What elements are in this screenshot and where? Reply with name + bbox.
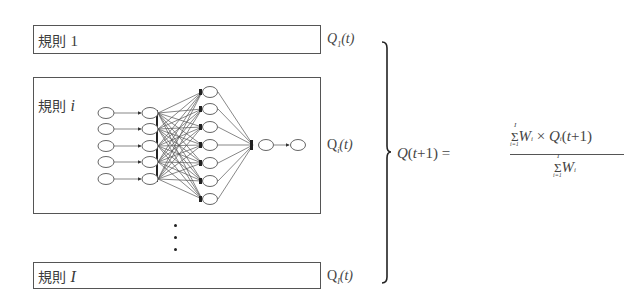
fraction-bar — [510, 154, 624, 155]
formula-numerator: ΣIi=1Wi × Qi(t+1) — [511, 128, 592, 145]
right-brace — [382, 42, 391, 283]
formula-denominator: ΣIi=1Wi — [554, 159, 576, 176]
formula-lhs: Q(t+1) = — [397, 145, 450, 162]
